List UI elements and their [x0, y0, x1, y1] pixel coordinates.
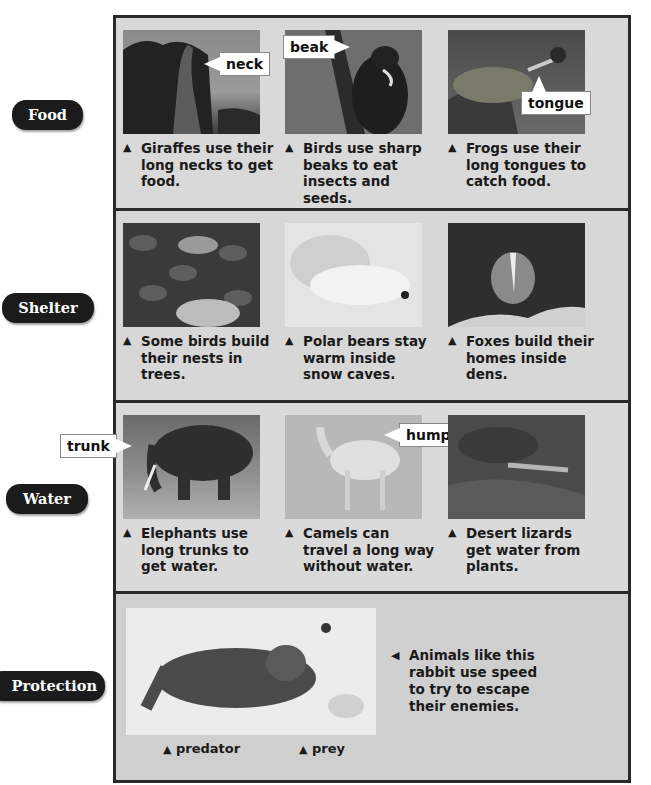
lizard-caption: ▲Desert lizards get water from plants. [448, 525, 601, 575]
prey-label: ▲ prey [299, 741, 345, 756]
lynx-rabbit-photo [126, 608, 376, 735]
adaptations-chart-frame: ▲Giraffes use their long necks to get fo… [113, 15, 631, 783]
trunk-callout: trunk [60, 434, 117, 458]
shelter-panel: ▲Some birds build their nests in trees. … [116, 211, 628, 403]
tongue-callout: tongue [521, 91, 591, 115]
bird-nest-illustration [123, 223, 260, 327]
lizard-photo [448, 415, 585, 519]
category-label-food: Food [12, 100, 83, 130]
category-label-protection: Protection [0, 671, 105, 701]
water-panel: ▲Elephants use long trunks to get water.… [116, 403, 628, 594]
polar-bear-illustration [285, 223, 422, 327]
polar-bear-caption: ▲Polar bears stay warm inside snow caves… [285, 333, 438, 383]
food-panel: ▲Giraffes use their long necks to get fo… [116, 18, 628, 211]
giraffe-illustration [123, 30, 260, 134]
frog-illustration [448, 30, 585, 134]
lizard-illustration [448, 415, 585, 519]
elephant-illustration [123, 415, 260, 519]
polar-bear-photo [285, 223, 422, 327]
giraffe-photo [123, 30, 260, 134]
giraffe-caption: ▲Giraffes use their long necks to get fo… [123, 140, 276, 190]
neck-callout: neck [219, 52, 270, 76]
frog-photo [448, 30, 585, 134]
fox-den-illustration [448, 223, 585, 327]
fox-den-caption: ▲Foxes build their homes inside dens. [448, 333, 601, 383]
protection-caption: ◀Animals like this rabbit use speed to t… [391, 647, 549, 715]
fox-den-photo [448, 223, 585, 327]
category-label-shelter: Shelter [2, 293, 94, 323]
beak-callout: beak [283, 35, 335, 59]
lynx-rabbit-illustration [126, 608, 376, 735]
protection-panel: ▲ predator ▲ prey ◀Animals like this rab… [116, 594, 628, 780]
elephant-caption: ▲Elephants use long trunks to get water. [123, 525, 276, 575]
category-label-water: Water [6, 484, 88, 514]
bird-nest-caption: ▲Some birds build their nests in trees. [123, 333, 276, 383]
frog-caption: ▲Frogs use their long tongues to catch f… [448, 140, 601, 190]
bird-nest-photo [123, 223, 260, 327]
camel-caption: ▲Camels can travel a long way without wa… [285, 525, 438, 575]
predator-label: ▲ predator [163, 741, 240, 756]
woodpecker-caption: ▲Birds use sharp beaks to eat insects an… [285, 140, 438, 206]
elephant-photo [123, 415, 260, 519]
